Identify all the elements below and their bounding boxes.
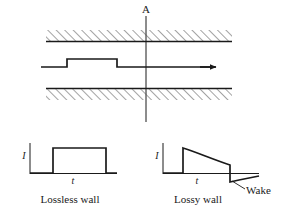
chart-lossless: I t Lossless wall: [21, 143, 117, 205]
lossless-x-axis-label: t: [72, 175, 75, 186]
figure-root: A I t: [0, 0, 287, 215]
lossless-y-axis-label: I: [21, 150, 26, 161]
bottom-wall: [46, 89, 232, 101]
lossy-caption: Lossy wall: [174, 193, 222, 205]
wake-label: Wake: [246, 184, 271, 196]
bottom-wall-hatching: [46, 89, 232, 100]
lossy-pulse-trace: [163, 148, 259, 182]
travelling-step-pulse: [41, 59, 215, 67]
wake-leader-line: [232, 181, 245, 189]
lossy-x-axis-label: t: [196, 175, 199, 186]
reference-axis-label: A: [142, 3, 150, 15]
top-wall: [46, 30, 232, 42]
lossy-y-axis-label: I: [154, 150, 159, 161]
waveguide-cross-section: A: [41, 3, 232, 122]
figure-canvas: A I t: [0, 0, 287, 215]
lossless-caption: Lossless wall: [41, 193, 100, 205]
lossless-pulse-trace: [30, 148, 117, 173]
chart-lossy: I t Wake Lossy wall: [154, 143, 271, 205]
reference-axis-a: A: [142, 3, 150, 122]
top-wall-hatching: [46, 30, 232, 41]
